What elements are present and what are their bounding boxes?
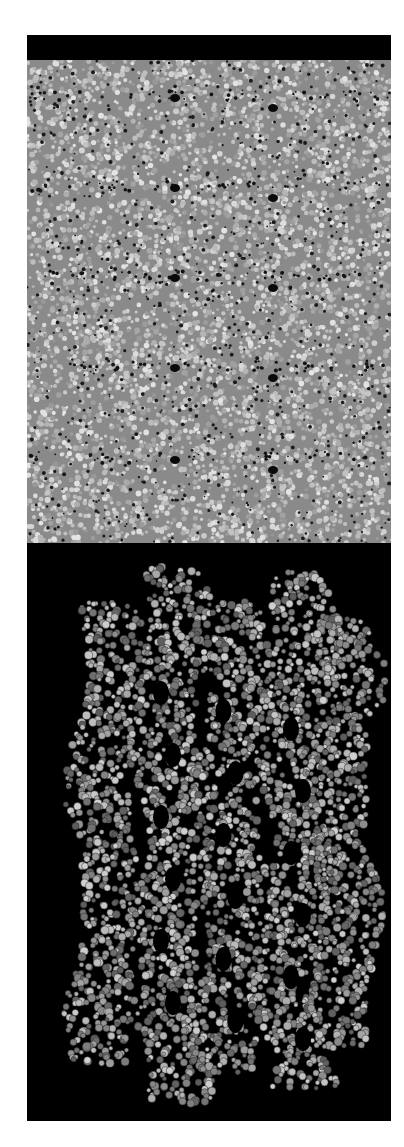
packed-atom-texture [27, 60, 391, 543]
bottom-panel-helical-columns [27, 543, 391, 1121]
molecular-figure [27, 35, 391, 1121]
top-panel-packed-surface [27, 35, 391, 543]
helical-columns-render [27, 543, 391, 1121]
